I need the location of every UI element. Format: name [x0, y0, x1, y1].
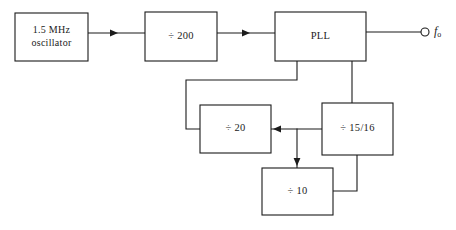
- divide-10-label: ÷ 10: [287, 185, 307, 196]
- arrowhead-into-pll: [242, 30, 250, 37]
- block-divide-10[interactable]: ÷ 10: [262, 168, 333, 215]
- block-oscillator[interactable]: 1.5 MHz oscillator: [15, 13, 88, 61]
- divide-20-label: ÷ 20: [225, 122, 245, 133]
- frequency-synthesizer-diagram: 1.5 MHz oscillator ÷ 200 PLL ÷ 20 ÷ 15/1…: [0, 0, 456, 230]
- block-pll[interactable]: PLL: [275, 12, 366, 61]
- block-divide-15-16[interactable]: ÷ 15/16: [322, 103, 393, 155]
- block-divide-200[interactable]: ÷ 200: [145, 12, 217, 61]
- output-frequency-label: fo: [434, 24, 441, 39]
- arrowhead-into-divide-200: [110, 30, 118, 37]
- divide-200-label: ÷ 200: [168, 30, 194, 41]
- divide-15-16-label: ÷ 15/16: [340, 122, 374, 133]
- arrowhead-into-divide-20: [273, 126, 281, 133]
- oscillator-label-line2: oscillator: [31, 37, 72, 48]
- output-terminal-group[interactable]: fo: [421, 24, 441, 39]
- pll-label: PLL: [311, 30, 331, 41]
- arrowhead-into-divide-10: [294, 158, 301, 166]
- oscillator-label-line1: 1.5 MHz: [33, 24, 71, 35]
- block-diagram-canvas: 1.5 MHz oscillator ÷ 200 PLL ÷ 20 ÷ 15/1…: [0, 0, 456, 230]
- block-divide-20[interactable]: ÷ 20: [200, 105, 271, 153]
- wire-divide-10-to-divide-15-16: [333, 155, 357, 191]
- output-terminal-circle[interactable]: [421, 28, 429, 36]
